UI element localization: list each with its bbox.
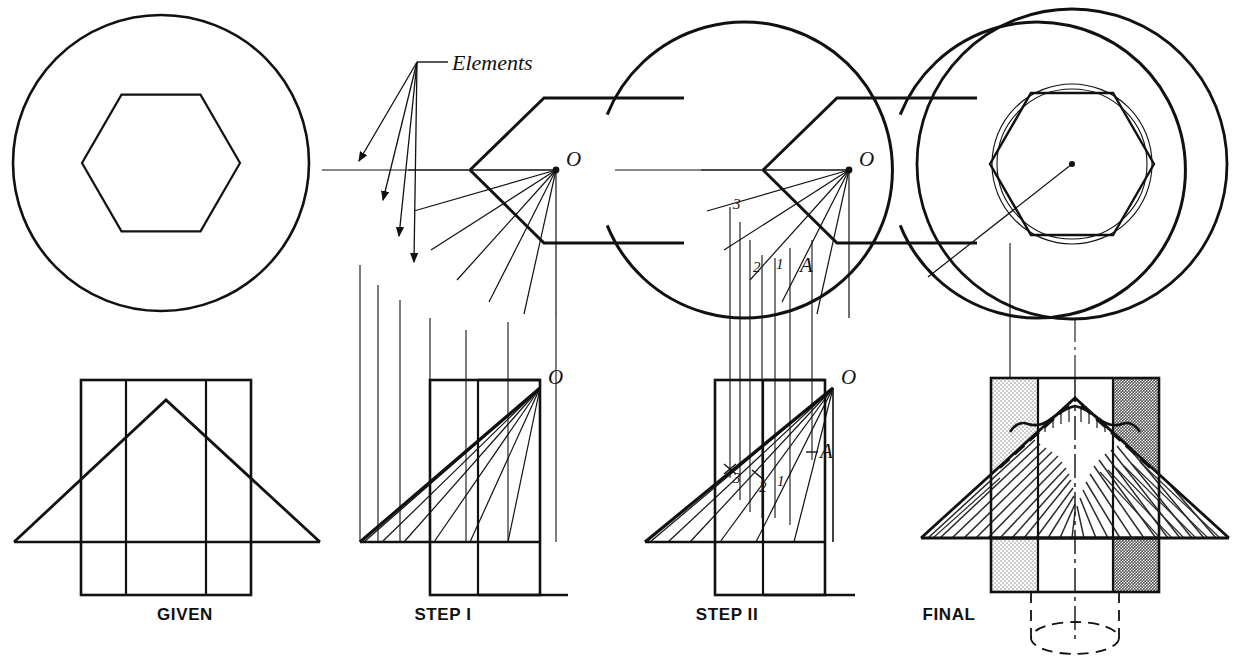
step1-elements-arrows — [359, 62, 417, 262]
final-front-lower-left-face — [991, 538, 1038, 592]
given-top-circle — [13, 15, 309, 311]
step2-top-label-2: 2 — [753, 259, 761, 275]
step2-front-elements — [650, 388, 833, 542]
panel-step-1: O Elements — [322, 22, 892, 624]
step2-top-arc — [900, 22, 1185, 318]
caption-step-2: STEP II — [696, 605, 758, 624]
step2-front-label-1: 1 — [777, 473, 785, 489]
caption-final: FINAL — [922, 605, 975, 624]
step1-front-elements — [364, 388, 540, 542]
given-top-hexagon — [82, 95, 240, 232]
step2-top-label-a: A — [798, 253, 813, 277]
step1-point-o-label: O — [566, 147, 581, 171]
figure-root: GIVEN O — [0, 0, 1239, 663]
panel-given: GIVEN — [13, 15, 320, 624]
step1-hex-lower — [470, 170, 684, 243]
step1-element-lines — [408, 170, 556, 318]
step2-point-o-label: O — [859, 147, 874, 171]
step2-front-label-a: A — [818, 439, 833, 463]
step1-front-point-o-label: O — [548, 365, 563, 389]
step1-elements-label: Elements — [451, 50, 533, 75]
step2-front-label-3: 3 — [732, 470, 741, 486]
panel-final: FINAL — [917, 9, 1229, 654]
step2-top-label-3: 3 — [732, 196, 741, 212]
caption-step-1: STEP I — [414, 605, 471, 624]
final-front-lower-right-face — [1113, 538, 1159, 592]
step2-top-label-1: 1 — [776, 256, 784, 272]
step1-point-o-marker — [553, 167, 560, 174]
given-front-cone — [14, 400, 320, 542]
technical-drawing-plate: GIVEN O — [0, 0, 1239, 663]
step2-front-point-o-label: O — [841, 365, 856, 389]
step2-front-prism — [715, 380, 825, 595]
caption-given: GIVEN — [157, 605, 213, 624]
step2-front-label-2: 2 — [759, 479, 767, 495]
step2-point-o-marker — [846, 167, 853, 174]
step2-hex-lower — [763, 170, 977, 243]
given-front-prism — [81, 380, 251, 595]
